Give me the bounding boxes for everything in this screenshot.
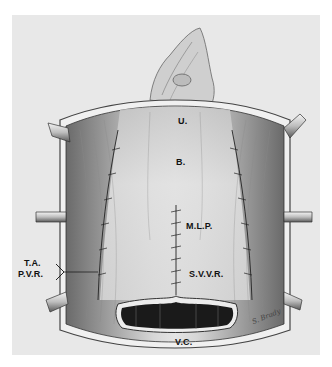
label-pvr: P.V.R.	[18, 270, 43, 279]
label-vc: V.C.	[175, 338, 192, 347]
bladder-drawing	[0, 0, 332, 367]
label-svvr: S.V.V.R.	[189, 270, 223, 279]
label-mlp: M.L.P.	[186, 222, 213, 231]
label-bladder: B.	[176, 158, 185, 167]
illustration: U. B. M.L.P. T.A. P.V.R. S.V.V.R. V.C. S…	[0, 0, 332, 367]
label-urethra: U.	[178, 117, 187, 126]
bladder-neck-opening	[116, 296, 238, 333]
top-tissue	[150, 28, 214, 108]
label-ta: T.A.	[24, 259, 41, 268]
